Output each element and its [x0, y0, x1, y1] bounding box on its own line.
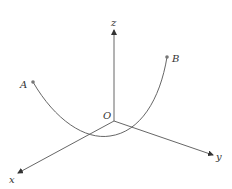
- y-axis: [114, 121, 213, 155]
- z-axis-label: z: [110, 17, 117, 28]
- point-b-marker: [165, 55, 169, 59]
- diagram-canvas: z x y O A B: [0, 0, 232, 189]
- point-b-label: B: [171, 53, 179, 64]
- x-axis-label: x: [9, 174, 15, 185]
- y-axis-label: y: [215, 151, 222, 162]
- diagram-svg: z x y O A B: [0, 0, 232, 189]
- curve-a-b: [33, 57, 167, 137]
- point-a-label: A: [19, 79, 27, 90]
- point-a-marker: [31, 80, 35, 84]
- origin-label: O: [103, 110, 111, 121]
- x-axis: [18, 121, 114, 173]
